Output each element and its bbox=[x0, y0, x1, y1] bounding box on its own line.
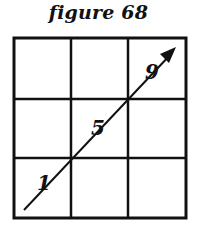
label-9: 9 bbox=[145, 60, 159, 84]
label-1: 1 bbox=[37, 171, 51, 195]
grid-diagram: 1 5 9 bbox=[0, 0, 197, 226]
label-5: 5 bbox=[91, 116, 105, 140]
arrowhead-icon bbox=[160, 47, 176, 63]
